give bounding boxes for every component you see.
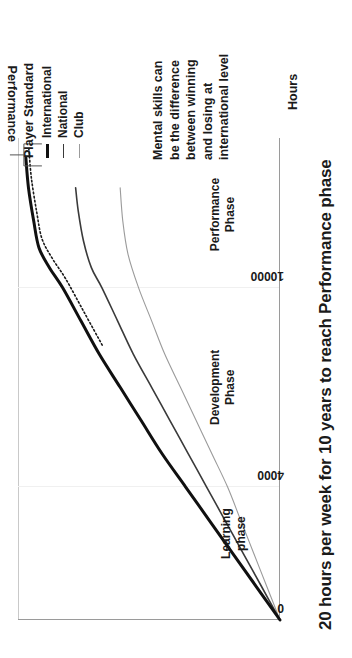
y-axis-title: Performance	[5, 66, 19, 142]
annotation-performance-phase: Performance Phase	[208, 176, 238, 252]
legend-label-international: International	[40, 66, 54, 138]
chart-title: 20 hours per week for 10 years to reach …	[316, 10, 336, 630]
legend-label-club: Club	[72, 111, 86, 138]
legend-item-national: National	[56, 8, 70, 158]
performance-phase-line2: Phase	[223, 176, 238, 252]
legend: Player Standard International National C…	[22, 8, 88, 158]
legend-item-club: Club	[72, 8, 86, 158]
callout-mental-skills: Mental skills can be the difference betw…	[150, 0, 233, 160]
line-club	[120, 188, 280, 620]
line-national	[76, 188, 280, 620]
development-phase-line2: Phase	[223, 349, 238, 425]
annotation-development-phase: Development Phase	[208, 349, 238, 425]
x-tick-label-0: 0	[277, 601, 284, 615]
legend-swatch-international	[46, 144, 49, 158]
annotation-learning-phase: Learning phase	[219, 496, 249, 572]
performance-phase-line1: Performance	[208, 176, 223, 252]
callout-line-3: between winning	[183, 0, 200, 160]
legend-swatch-national	[63, 144, 64, 158]
legend-label-national: National	[56, 91, 70, 138]
legend-title: Player Standard	[22, 8, 36, 158]
learning-phase-line2: phase	[234, 496, 249, 572]
callout-line-2: be the difference	[167, 0, 184, 160]
rotated-chart-canvas: Learning phase Development Phase Perform…	[0, 0, 352, 658]
legend-item-international: International	[40, 8, 54, 158]
plot-area: Learning phase Development Phase Perform…	[18, 138, 280, 620]
callout-line-5: international level	[216, 0, 233, 160]
callout-line-4: and losing at	[200, 0, 217, 160]
learning-phase-line1: Learning	[219, 496, 234, 572]
x-tick-label-10000: 10000	[251, 269, 284, 283]
legend-swatch-club	[79, 144, 80, 158]
development-phase-line1: Development	[208, 349, 223, 425]
callout-line-1: Mental skills can	[150, 0, 167, 160]
x-axis-title: Hours	[286, 74, 300, 110]
x-tick-label-4000: 4000	[257, 468, 284, 482]
